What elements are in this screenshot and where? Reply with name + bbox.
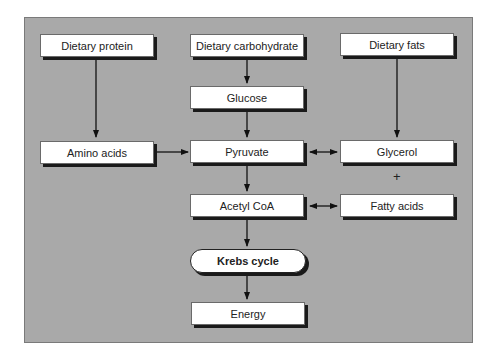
node-glucose: Glucose: [190, 86, 304, 109]
node-label: Energy: [231, 308, 266, 320]
node-label: Glucose: [227, 92, 267, 104]
node-acetyl-coa: Acetyl CoA: [190, 194, 304, 217]
node-glycerol: Glycerol: [340, 140, 454, 163]
plus-sign: +: [393, 169, 401, 184]
node-label: Dietary carbohydrate: [196, 40, 298, 52]
node-label: Glycerol: [377, 146, 417, 158]
node-label: Dietary fats: [369, 39, 425, 51]
node-krebs-cycle: Krebs cycle: [190, 249, 306, 273]
node-fatty-acids: Fatty acids: [340, 194, 454, 217]
node-amino-acids: Amino acids: [40, 141, 154, 164]
node-label: Amino acids: [67, 147, 127, 159]
node-label: Krebs cycle: [217, 255, 279, 267]
node-energy: Energy: [191, 302, 305, 325]
node-dietary-protein: Dietary protein: [40, 34, 154, 57]
node-dietary-fats: Dietary fats: [340, 33, 454, 56]
node-dietary-carbohydrate: Dietary carbohydrate: [190, 34, 304, 57]
node-pyruvate: Pyruvate: [190, 140, 304, 163]
node-label: Pyruvate: [225, 146, 268, 158]
node-label: Acetyl CoA: [220, 200, 274, 212]
node-label: Fatty acids: [370, 200, 423, 212]
node-label: Dietary protein: [61, 40, 133, 52]
